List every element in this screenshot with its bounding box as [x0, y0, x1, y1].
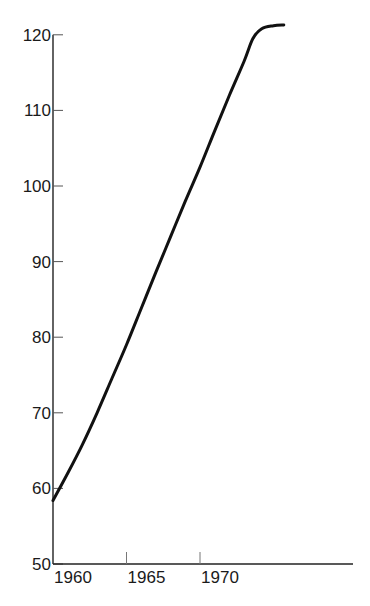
- y-tick-label: 100: [23, 177, 51, 196]
- y-tick-label: 80: [32, 328, 51, 347]
- x-tick-label: 1970: [201, 568, 239, 587]
- data-line: [53, 25, 284, 501]
- x-tick-label: 1965: [128, 568, 166, 587]
- y-tick-label: 110: [24, 101, 51, 120]
- y-tick-label: 120: [23, 26, 51, 45]
- y-tick-label: 50: [32, 555, 51, 574]
- line-chart: 5060708090100110120 196019651970: [0, 0, 370, 606]
- y-tick-label: 60: [32, 479, 51, 498]
- x-tick-label: 1960: [54, 568, 92, 587]
- y-tick-label: 90: [32, 253, 51, 272]
- y-tick-label: 70: [32, 404, 51, 423]
- x-axis: 196019651970: [53, 552, 353, 587]
